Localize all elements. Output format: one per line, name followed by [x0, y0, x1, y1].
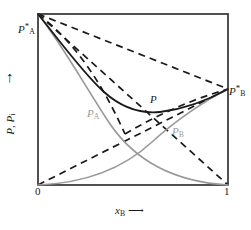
label-pb-star-subscript: B [240, 89, 245, 98]
label-pb-star-base: P [229, 85, 236, 97]
label-pa-star-base: P [18, 23, 25, 35]
y-axis-title-separator: , [4, 123, 16, 129]
label-pa-star-subscript: A [29, 27, 35, 36]
label-pure-b-vapour-pressure: P*B [229, 84, 245, 98]
y-axis-title-second-subscript: i [8, 114, 17, 116]
label-pa-curve-base: P [87, 107, 94, 119]
x-axis-tick-1: 1 [224, 186, 230, 197]
label-pb-curve-subscript: B [179, 130, 184, 139]
x-axis-arrow-icon: ⟶ [125, 204, 144, 216]
label-partial-pressure-b-curve: PB [172, 126, 184, 138]
y-axis-arrow-icon: ↑ [6, 70, 14, 85]
label-pb-curve-base: P [172, 125, 179, 137]
vapour-pressure-diagram: P*A P*B P PA PB 0 1 xB⟶ ↑ P, Pi [0, 0, 251, 230]
x-axis-title: xB⟶ [115, 205, 144, 217]
y-axis-title-base: P [4, 128, 16, 135]
label-pure-a-vapour-pressure: P*A [18, 22, 35, 36]
label-pa-curve-subscript: A [94, 112, 100, 121]
label-partial-pressure-a-curve: PA [87, 108, 99, 120]
label-total-pressure-curve: P [150, 94, 157, 105]
x-axis-tick-0: 0 [35, 186, 41, 197]
label-p-total-base: P [150, 93, 157, 105]
y-axis-title-second: P [4, 116, 16, 123]
y-axis-title: P, Pi [5, 101, 17, 147]
